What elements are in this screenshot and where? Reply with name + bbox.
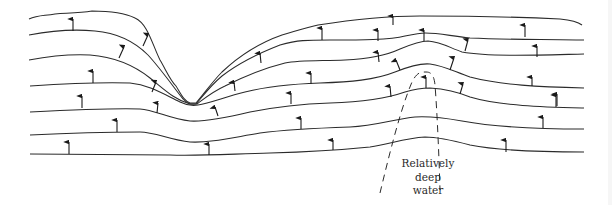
wave-crest-4 [30,64,584,106]
label-line-3: water [385,184,471,198]
arrow-icon [143,35,148,46]
deep-water-label: Relatively deep water [385,157,471,198]
wave-crest-6 [30,117,584,142]
label-line-1: Relatively [385,157,471,171]
wave-crest-lines [29,11,584,155]
edge-strip [608,0,612,205]
arrow-icon [390,86,391,97]
arrow-icon [396,60,400,70]
arrow-icon [465,40,468,51]
wave-crest-3 [29,41,584,104]
arrow-icon [234,82,235,91]
arrow-icon [215,107,218,116]
arrow-icon [260,53,261,63]
arrow-icon [157,103,158,113]
arrow-icon [119,47,124,58]
label-line-2: deep [385,171,471,185]
wave-crest-2 [29,30,584,104]
wave-refraction-diagram: Relatively deep water [0,0,612,205]
wave-crest-5 [30,88,584,121]
wave-crest-7 [30,137,584,155]
diagram-canvas [0,0,612,205]
arrow-icon [460,84,463,94]
arrow-icon [450,58,454,70]
arrow-icon [378,52,379,62]
wave-crest-1 [29,11,582,103]
